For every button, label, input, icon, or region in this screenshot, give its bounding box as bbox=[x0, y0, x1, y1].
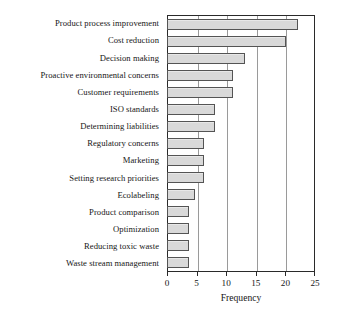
plot-area bbox=[167, 15, 315, 272]
category-label: Determining liabilities bbox=[0, 118, 163, 135]
bar bbox=[167, 36, 286, 47]
category-label: Customer requirements bbox=[0, 84, 163, 101]
bar bbox=[167, 53, 245, 64]
x-tick-label: 0 bbox=[165, 276, 170, 290]
category-label: Cost reduction bbox=[0, 32, 163, 49]
bar-row bbox=[168, 186, 314, 203]
category-label: Marketing bbox=[0, 152, 163, 169]
bar-row bbox=[168, 101, 314, 118]
x-axis-title: Frequency bbox=[167, 292, 315, 303]
bar-row bbox=[168, 118, 314, 135]
bar-row bbox=[168, 169, 314, 186]
category-label: Ecolabeling bbox=[0, 186, 163, 203]
x-tick-label: 15 bbox=[251, 276, 260, 290]
bar-row bbox=[168, 67, 314, 84]
bar-row bbox=[168, 135, 314, 152]
category-label: Regulatory concerns bbox=[0, 135, 163, 152]
category-label: Optimization bbox=[0, 221, 163, 238]
bar-row bbox=[168, 16, 314, 33]
category-axis-labels: Product process improvement Cost reducti… bbox=[0, 15, 163, 272]
bar bbox=[167, 257, 189, 268]
bar bbox=[167, 172, 204, 183]
bar bbox=[167, 240, 189, 251]
bar-row bbox=[168, 254, 314, 271]
category-label: Waste stream management bbox=[0, 255, 163, 272]
bar-row bbox=[168, 84, 314, 101]
bar-row bbox=[168, 50, 314, 67]
category-label: Reducing toxic waste bbox=[0, 238, 163, 255]
bar bbox=[167, 206, 189, 217]
chart-figure: Product process improvement Cost reducti… bbox=[0, 0, 337, 319]
x-tick-label: 10 bbox=[222, 276, 231, 290]
x-tick-label: 5 bbox=[194, 276, 199, 290]
bar-row bbox=[168, 203, 314, 220]
category-label: ISO standards bbox=[0, 101, 163, 118]
x-tick-label: 20 bbox=[281, 276, 290, 290]
bar-row bbox=[168, 152, 314, 169]
bar bbox=[167, 189, 195, 200]
category-label: Product process improvement bbox=[0, 15, 163, 32]
bar bbox=[167, 87, 233, 98]
bar bbox=[167, 104, 215, 115]
category-label: Product comparison bbox=[0, 204, 163, 221]
x-tick-label: 25 bbox=[310, 276, 319, 290]
bar-row bbox=[168, 237, 314, 254]
bar bbox=[167, 138, 204, 149]
bar-series bbox=[168, 16, 314, 271]
bar-row bbox=[168, 33, 314, 50]
bar bbox=[167, 223, 189, 234]
bar bbox=[167, 19, 298, 30]
bar bbox=[167, 121, 215, 132]
x-axis-tick-labels: 0510152025 bbox=[167, 276, 315, 290]
category-label: Decision making bbox=[0, 49, 163, 66]
bar-row bbox=[168, 220, 314, 237]
bar bbox=[167, 155, 204, 166]
category-label: Proactive environmental concerns bbox=[0, 66, 163, 83]
category-label: Setting research priorities bbox=[0, 169, 163, 186]
bar bbox=[167, 70, 233, 81]
